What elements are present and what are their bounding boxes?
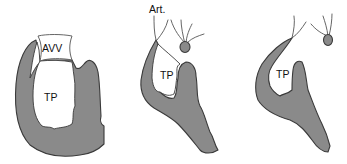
panel-2-oval xyxy=(180,42,190,53)
anatomy-diagram: AVV TP Art. TP xyxy=(0,0,347,164)
panel-3-tissue xyxy=(256,38,330,152)
panel-3-oval xyxy=(324,35,333,46)
panel-1: AVV TP xyxy=(16,35,104,157)
panel-2: Art. TP xyxy=(141,3,218,153)
panel-2-leaflet-left-b xyxy=(157,20,168,40)
panel-3-leaflet-c xyxy=(311,24,328,36)
label-art: Art. xyxy=(149,3,165,15)
label-tp-2: TP xyxy=(160,69,173,81)
panel-3-leaflet-a xyxy=(292,16,294,38)
panel-3: TP xyxy=(256,14,333,152)
panel-3-leaflet-e xyxy=(329,14,332,36)
diagram-canvas: AVV TP Art. TP xyxy=(0,0,347,164)
label-tp-3: TP xyxy=(276,68,289,80)
panel-2-leaflet-left-a xyxy=(154,16,156,40)
panel-2-leaflet-right-b xyxy=(188,34,204,42)
panel-2-tissue xyxy=(141,40,218,153)
label-tp-1: TP xyxy=(44,91,57,103)
label-avv: AVV xyxy=(42,42,62,54)
panel-3-leaflet-d xyxy=(323,16,328,36)
